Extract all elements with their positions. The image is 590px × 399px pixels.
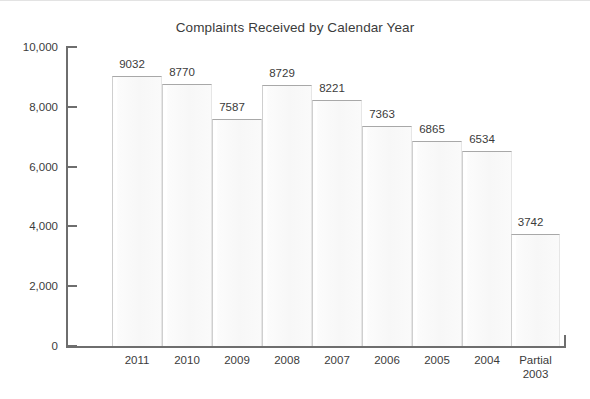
x-axis-category-label: 2009 — [224, 353, 250, 367]
x-axis-category-label: 2008 — [274, 353, 300, 367]
x-axis-category-label: 2007 — [324, 353, 350, 367]
category-label-line: 2011 — [125, 353, 150, 367]
category-label-line: 2005 — [424, 353, 450, 367]
x-axis-category-label: 2011 — [125, 353, 150, 367]
x-axis-category-label: 2004 — [474, 353, 500, 367]
x-axis-category-labels: 20112010200920082007200620052004Partial2… — [0, 1, 590, 399]
x-axis-category-label: 2006 — [374, 353, 400, 367]
x-axis-category-label: 2005 — [424, 353, 450, 367]
category-label-line: 2007 — [324, 353, 350, 367]
category-label-line: 2003 — [519, 367, 552, 381]
category-label-line: 2006 — [374, 353, 400, 367]
category-label-line: Partial — [519, 353, 552, 367]
chart-container: Complaints Received by Calendar Year 02,… — [0, 0, 590, 399]
category-label-line: 2009 — [224, 353, 250, 367]
category-label-line: 2008 — [274, 353, 300, 367]
category-label-line: 2010 — [174, 353, 200, 367]
category-label-line: 2004 — [474, 353, 500, 367]
x-axis-category-label: 2010 — [174, 353, 200, 367]
x-axis-category-label: Partial2003 — [519, 353, 552, 381]
